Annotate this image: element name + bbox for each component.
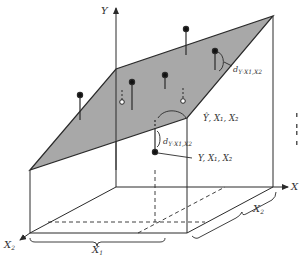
x-axis-label: X — [290, 181, 299, 192]
margin-marks — [296, 113, 298, 145]
regression-plane-diagram: Y X X2 X1 X2 dY·X1,X2 dY·X1,X2 Ŷ, X₁, X₂… — [0, 0, 300, 268]
deviation-label-mid: dY·X1,X2 — [163, 137, 192, 147]
projection-lines — [48, 170, 225, 233]
predicted-point-label: Ŷ, X₁, X₂ — [203, 112, 239, 123]
x2-axis — [20, 233, 30, 240]
y-axis-label: Y — [101, 5, 109, 16]
regression-plane — [30, 16, 273, 170]
span-braces — [30, 192, 276, 246]
x2-axis-label: X2 — [3, 239, 15, 251]
observed-point-label: Y, X₁, X₂ — [198, 153, 233, 163]
deviation-label-top: dY·X1,X2 — [233, 65, 262, 75]
